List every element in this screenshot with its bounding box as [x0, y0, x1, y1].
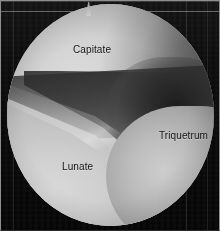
label-triquetrum: Triquetrum: [159, 130, 208, 141]
arthroscopy-figure: Capitate Triquetrum Lunate: [0, 0, 220, 231]
label-capitate: Capitate: [73, 44, 111, 55]
image-grain: [7, 4, 214, 226]
arthroscope-circular-view: [7, 4, 214, 226]
label-lunate: Lunate: [62, 161, 93, 172]
top-scanline-upper: [0, 1, 220, 2]
